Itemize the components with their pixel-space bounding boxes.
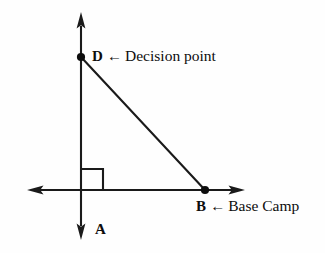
point-label-d: D: [92, 49, 103, 64]
label-point-a: A: [95, 221, 106, 237]
geometry-diagram: D ← Decision point B ← Base Camp A: [0, 0, 325, 253]
left-arrow-icon-decision: ←: [103, 49, 125, 64]
label-decision-point: D ← Decision point: [92, 48, 216, 64]
point-label-b: B: [196, 199, 206, 214]
label-base-camp: B ← Base Camp: [196, 198, 299, 214]
point-marker-b: [201, 186, 209, 194]
point-label-a: A: [95, 221, 106, 237]
right-angle-marker: [81, 169, 103, 190]
label-text-decision-point: Decision point: [125, 48, 216, 64]
label-text-base-camp: Base Camp: [228, 198, 299, 214]
left-arrow-icon-base-camp: ←: [206, 199, 228, 214]
diagram-canvas: [0, 0, 325, 253]
point-marker-d: [77, 53, 85, 61]
